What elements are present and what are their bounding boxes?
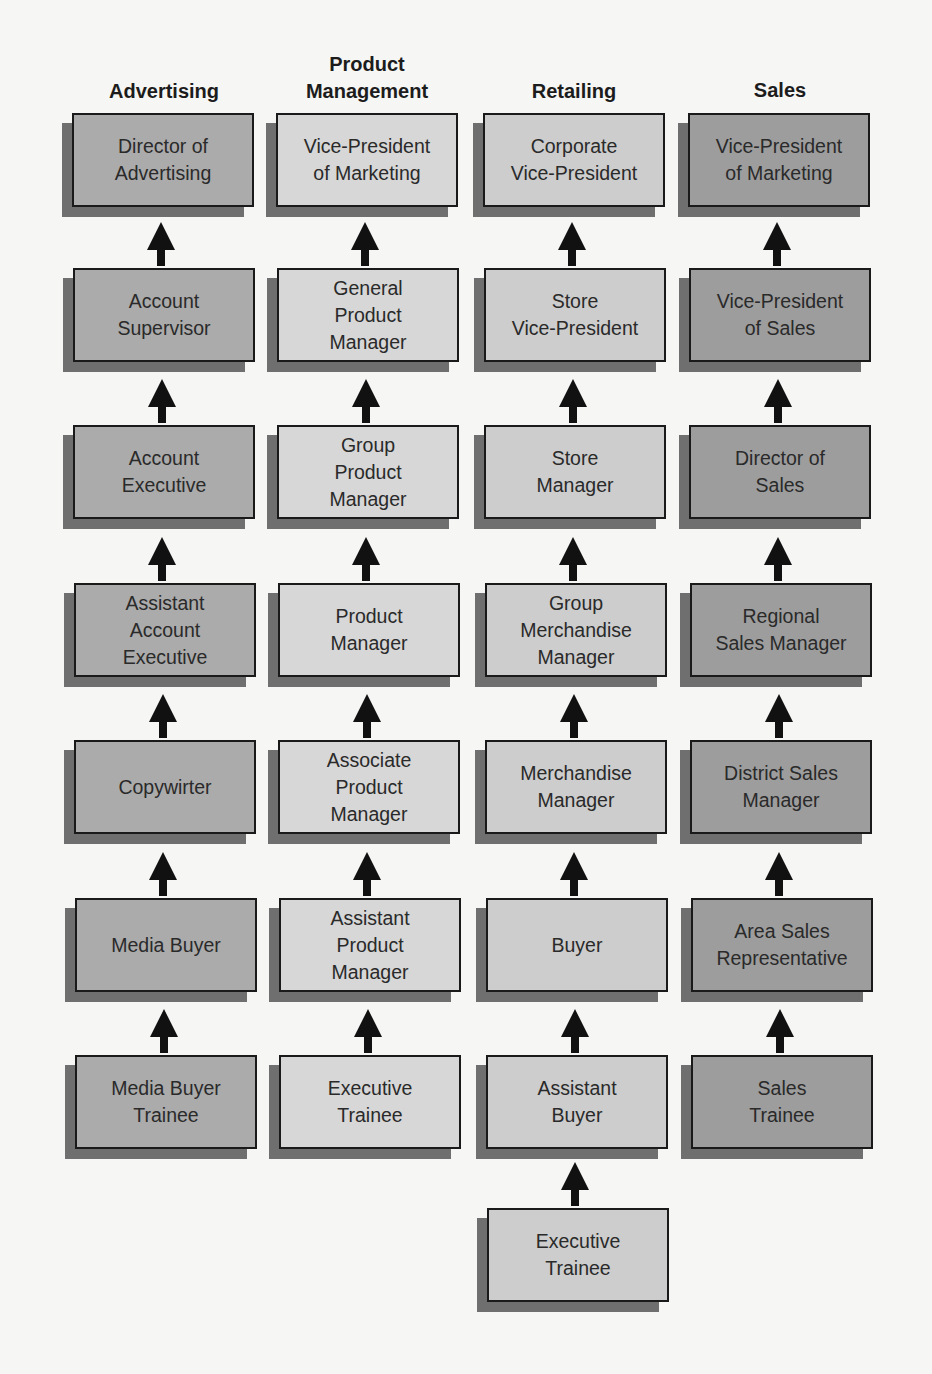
- up-arrow-icon: [764, 852, 794, 896]
- career-level-box: Store Manager: [484, 425, 666, 519]
- up-arrow-icon: [353, 1009, 383, 1053]
- career-level-box: Product Manager: [278, 583, 460, 677]
- up-arrow-icon: [146, 222, 176, 266]
- career-level-label: Sales Trainee: [691, 1055, 873, 1149]
- career-level-label: Merchandise Manager: [485, 740, 667, 834]
- column-header-advertising: Advertising: [84, 78, 244, 105]
- career-level-label: Director of Sales: [689, 425, 871, 519]
- career-level-box: Group Merchandise Manager: [485, 583, 667, 677]
- up-arrow-icon: [147, 537, 177, 581]
- career-level-label: Buyer: [486, 898, 668, 992]
- career-level-box: Director of Advertising: [72, 113, 254, 207]
- column-header-retailing: Retailing: [494, 78, 654, 105]
- career-level-label: Account Executive: [73, 425, 255, 519]
- up-arrow-icon: [147, 379, 177, 423]
- career-level-label: Vice-President of Marketing: [688, 113, 870, 207]
- career-level-label: Corporate Vice-President: [483, 113, 665, 207]
- career-level-box: District Sales Manager: [690, 740, 872, 834]
- career-level-label: Director of Advertising: [72, 113, 254, 207]
- career-level-label: Executive Trainee: [279, 1055, 461, 1149]
- career-level-box: Account Supervisor: [73, 268, 255, 362]
- career-level-box: Media Buyer: [75, 898, 257, 992]
- up-arrow-icon: [557, 222, 587, 266]
- column-header-product-management: Product Management: [287, 51, 447, 105]
- up-arrow-icon: [765, 1009, 795, 1053]
- career-level-label: Account Supervisor: [73, 268, 255, 362]
- career-level-box: Assistant Product Manager: [279, 898, 461, 992]
- up-arrow-icon: [352, 694, 382, 738]
- career-level-box: Assistant Account Executive: [74, 583, 256, 677]
- career-level-label: Store Manager: [484, 425, 666, 519]
- career-level-box: Media Buyer Trainee: [75, 1055, 257, 1149]
- career-level-box: Director of Sales: [689, 425, 871, 519]
- career-level-box: Assistant Buyer: [486, 1055, 668, 1149]
- up-arrow-icon: [352, 852, 382, 896]
- career-level-label: Executive Trainee: [487, 1208, 669, 1302]
- career-level-label: Area Sales Representative: [691, 898, 873, 992]
- career-level-label: Product Manager: [278, 583, 460, 677]
- career-level-label: General Product Manager: [277, 268, 459, 362]
- career-level-label: Media Buyer: [75, 898, 257, 992]
- career-level-box: Executive Trainee: [487, 1208, 669, 1302]
- career-level-box: Corporate Vice-President: [483, 113, 665, 207]
- career-level-label: Regional Sales Manager: [690, 583, 872, 677]
- up-arrow-icon: [351, 379, 381, 423]
- career-level-label: Group Product Manager: [277, 425, 459, 519]
- career-level-box: Account Executive: [73, 425, 255, 519]
- up-arrow-icon: [558, 537, 588, 581]
- column-header-sales: Sales: [700, 77, 860, 104]
- up-arrow-icon: [148, 852, 178, 896]
- up-arrow-icon: [559, 852, 589, 896]
- career-level-box: Merchandise Manager: [485, 740, 667, 834]
- up-arrow-icon: [763, 537, 793, 581]
- career-level-label: Vice-President of Sales: [689, 268, 871, 362]
- career-level-label: Associate Product Manager: [278, 740, 460, 834]
- career-level-box: General Product Manager: [277, 268, 459, 362]
- career-level-label: Assistant Account Executive: [74, 583, 256, 677]
- career-level-box: Buyer: [486, 898, 668, 992]
- career-level-label: Vice-President of Marketing: [276, 113, 458, 207]
- up-arrow-icon: [763, 379, 793, 423]
- career-level-label: Store Vice-President: [484, 268, 666, 362]
- career-level-box: Sales Trainee: [691, 1055, 873, 1149]
- career-level-box: Regional Sales Manager: [690, 583, 872, 677]
- career-level-label: Assistant Buyer: [486, 1055, 668, 1149]
- up-arrow-icon: [559, 694, 589, 738]
- career-level-box: Vice-President of Marketing: [276, 113, 458, 207]
- career-level-box: Area Sales Representative: [691, 898, 873, 992]
- career-level-label: Copywirter: [74, 740, 256, 834]
- career-level-box: Vice-President of Sales: [689, 268, 871, 362]
- career-level-label: Media Buyer Trainee: [75, 1055, 257, 1149]
- career-level-box: Store Vice-President: [484, 268, 666, 362]
- career-level-box: Executive Trainee: [279, 1055, 461, 1149]
- up-arrow-icon: [351, 537, 381, 581]
- up-arrow-icon: [350, 222, 380, 266]
- career-level-box: Group Product Manager: [277, 425, 459, 519]
- up-arrow-icon: [560, 1162, 590, 1206]
- career-level-box: Associate Product Manager: [278, 740, 460, 834]
- up-arrow-icon: [762, 222, 792, 266]
- career-level-box: Copywirter: [74, 740, 256, 834]
- up-arrow-icon: [558, 379, 588, 423]
- up-arrow-icon: [149, 1009, 179, 1053]
- career-level-label: Group Merchandise Manager: [485, 583, 667, 677]
- up-arrow-icon: [764, 694, 794, 738]
- career-level-label: Assistant Product Manager: [279, 898, 461, 992]
- up-arrow-icon: [148, 694, 178, 738]
- career-level-label: District Sales Manager: [690, 740, 872, 834]
- up-arrow-icon: [560, 1009, 590, 1053]
- career-level-box: Vice-President of Marketing: [688, 113, 870, 207]
